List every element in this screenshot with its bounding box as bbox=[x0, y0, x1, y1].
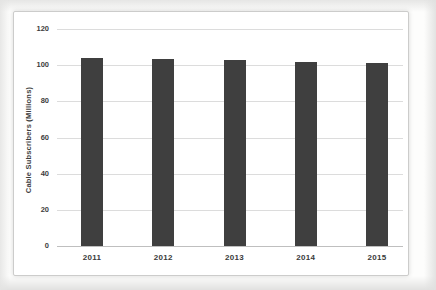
y-tick-label: 20 bbox=[25, 205, 49, 215]
bar-2014 bbox=[295, 62, 317, 246]
y-tick-label: 120 bbox=[25, 24, 49, 34]
x-tick-label-2011: 2011 bbox=[70, 253, 114, 263]
chart-frame: Cable Subscribers (Millions) 02040608010… bbox=[13, 11, 409, 276]
x-tick-label-2015: 2015 bbox=[355, 253, 399, 263]
bar-2012 bbox=[152, 59, 174, 246]
bar-2011 bbox=[81, 58, 103, 246]
y-tick-label: 60 bbox=[25, 133, 49, 143]
gridline bbox=[57, 29, 403, 30]
y-tick-label: 80 bbox=[25, 96, 49, 106]
bar-2015 bbox=[366, 63, 388, 246]
y-tick-label: 40 bbox=[25, 169, 49, 179]
y-tick-label: 0 bbox=[25, 241, 49, 251]
photo-background: Cable Subscribers (Millions) 02040608010… bbox=[0, 0, 436, 290]
x-tick-label-2013: 2013 bbox=[213, 253, 257, 263]
x-tick-label-2014: 2014 bbox=[284, 253, 328, 263]
bar-2013 bbox=[224, 60, 246, 246]
x-tick-label-2012: 2012 bbox=[141, 253, 185, 263]
y-tick-label: 100 bbox=[25, 60, 49, 70]
x-axis-line bbox=[57, 246, 403, 247]
